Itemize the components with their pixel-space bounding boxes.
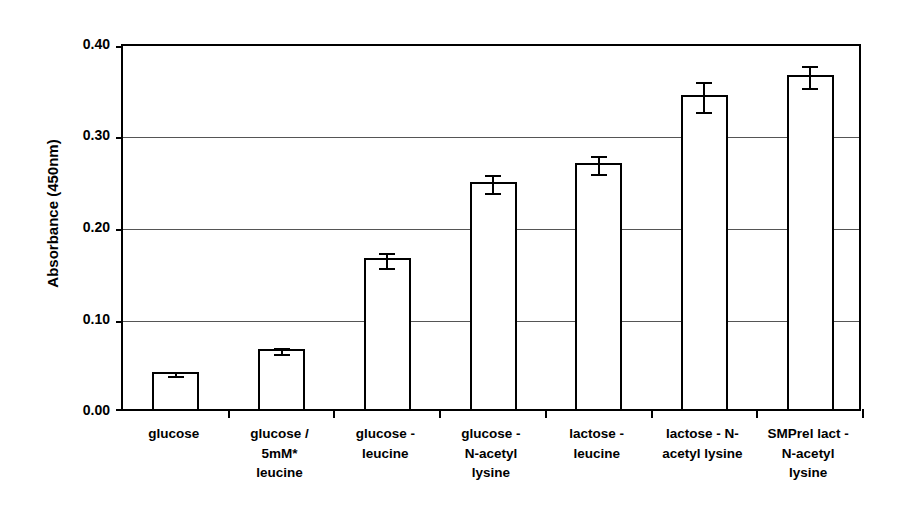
bar-5 [575, 163, 622, 409]
x-axis-label-line: leucine [537, 444, 657, 464]
x-axis-label-line: glucose / [220, 424, 340, 444]
chart-figure: Absorbance (450nm) 0.40 0.30 0.20 0.10 0… [0, 0, 909, 522]
x-tickmark-4 [545, 409, 547, 418]
error-bar-4 [492, 175, 494, 193]
y-tickmark-010 [116, 321, 123, 323]
error-bar-5 [598, 156, 600, 174]
gridline-030 [123, 137, 859, 138]
y-tick-label-000: 0.00 [64, 403, 110, 417]
error-cap-6-upper [696, 82, 712, 84]
x-tickmark-7 [862, 409, 864, 418]
error-cap-6-lower [696, 112, 712, 114]
error-cap-1-lower [168, 376, 184, 378]
x-axis-label-line: leucine [220, 463, 340, 483]
error-cap-7-lower [802, 88, 818, 90]
y-tick-label-030: 0.30 [64, 128, 110, 142]
error-cap-4-lower [485, 193, 501, 195]
y-tickmark-040 [116, 46, 123, 48]
x-tickmark-3 [439, 409, 441, 418]
y-tickmark-000 [116, 409, 123, 411]
x-axis-label-line: SMPrel lact - [748, 424, 868, 444]
error-bar-3 [386, 253, 388, 268]
error-cap-7-upper [802, 66, 818, 68]
x-axis-label-line: lactose - [537, 424, 657, 444]
x-tickmark-1 [228, 409, 230, 418]
error-cap-3-upper [379, 253, 395, 255]
x-axis-label-line: N-acetyl [748, 444, 868, 464]
bar-3 [364, 258, 411, 409]
x-axis-label-line: acetyl lysine [643, 444, 763, 464]
x-axis-label-line: leucine [325, 444, 445, 464]
x-axis-label-3: glucose -leucine [325, 424, 445, 463]
y-axis-tick-labels: 0.40 0.30 0.20 0.10 0.00 [58, 0, 110, 522]
y-tickmark-030 [116, 137, 123, 139]
y-tick-label-020: 0.20 [64, 220, 110, 234]
x-axis-label-line: 5mM* [220, 444, 340, 464]
x-axis-label-7: SMPrel lact -N-acetyllysine [748, 424, 868, 483]
error-cap-1-upper [168, 372, 184, 374]
error-cap-5-upper [591, 156, 607, 158]
bar-4 [470, 182, 517, 409]
error-cap-4-upper [485, 175, 501, 177]
x-axis-label-4: glucose -N-acetyllysine [431, 424, 551, 483]
x-tickmark-6 [756, 409, 758, 418]
y-tick-label-010: 0.10 [64, 312, 110, 326]
x-axis-label-line: lactose - N- [643, 424, 763, 444]
bar-6 [681, 95, 728, 409]
y-tick-label-040: 0.40 [64, 37, 110, 51]
x-axis-label-1: glucose [114, 424, 234, 444]
y-tickmark-020 [116, 229, 123, 231]
x-tickmark-2 [333, 409, 335, 418]
x-axis-label-line: lysine [431, 463, 551, 483]
plot-area [121, 44, 861, 411]
error-cap-2-upper [274, 348, 290, 350]
x-axis-category-labels: glucoseglucose /5mM*leucineglucose -leuc… [121, 424, 909, 520]
x-axis-label-2: glucose /5mM*leucine [220, 424, 340, 483]
x-axis-label-line: glucose [114, 424, 234, 444]
bar-2 [258, 349, 305, 409]
x-tickmark-5 [651, 409, 653, 418]
x-axis-label-line: glucose - [325, 424, 445, 444]
x-axis-label-line: lysine [748, 463, 868, 483]
bar-7 [787, 75, 834, 409]
x-axis-label-6: lactose - N-acetyl lysine [643, 424, 763, 463]
error-bar-6 [703, 82, 705, 113]
error-cap-5-lower [591, 174, 607, 176]
x-axis-label-5: lactose -leucine [537, 424, 657, 463]
x-axis-label-line: N-acetyl [431, 444, 551, 464]
x-axis-label-line: glucose - [431, 424, 551, 444]
error-bar-7 [809, 66, 811, 88]
error-cap-3-lower [379, 268, 395, 270]
error-cap-2-lower [274, 354, 290, 356]
